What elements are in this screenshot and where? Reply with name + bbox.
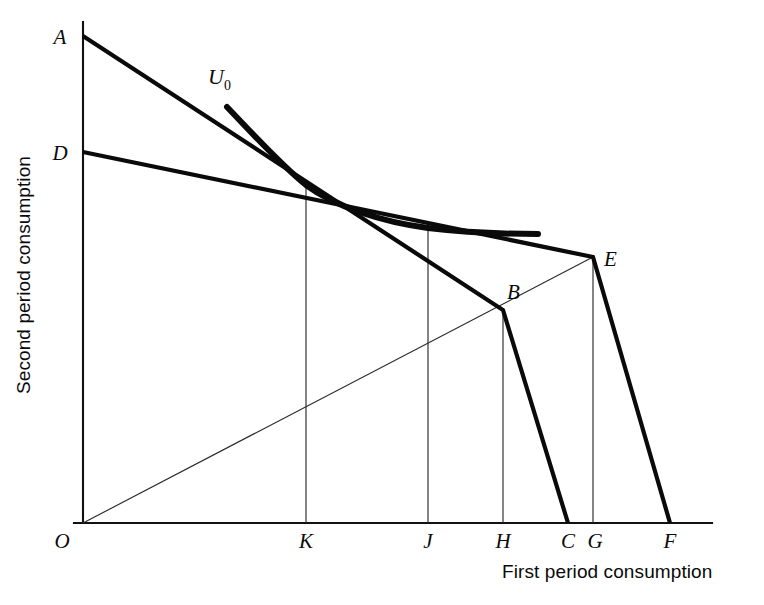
x-tick-label-G: G xyxy=(587,529,602,553)
point-label-A: A xyxy=(52,25,67,49)
y-axis-title: Second period consumption xyxy=(13,156,34,394)
x-tick-label-C: C xyxy=(561,529,576,553)
point-label-O: O xyxy=(54,529,69,553)
figure-canvas: A D O B E K J H C G F U0 First period co… xyxy=(0,0,764,605)
point-label-E: E xyxy=(603,247,617,271)
point-label-B: B xyxy=(507,280,520,304)
budget-line-ABC xyxy=(83,36,568,523)
curve-label-u0-sub: 0 xyxy=(224,78,231,93)
budget-line-DEF xyxy=(83,152,670,523)
x-axis-title: First period consumption xyxy=(502,561,712,582)
x-tick-label-H: H xyxy=(494,529,512,553)
curve-label-u0: U0 xyxy=(208,64,231,93)
x-tick-label-J: J xyxy=(423,529,434,553)
x-tick-label-F: F xyxy=(663,529,677,553)
diagram-svg: A D O B E K J H C G F U0 First period co… xyxy=(0,0,764,605)
point-label-D: D xyxy=(51,141,67,165)
x-tick-label-K: K xyxy=(298,529,314,553)
